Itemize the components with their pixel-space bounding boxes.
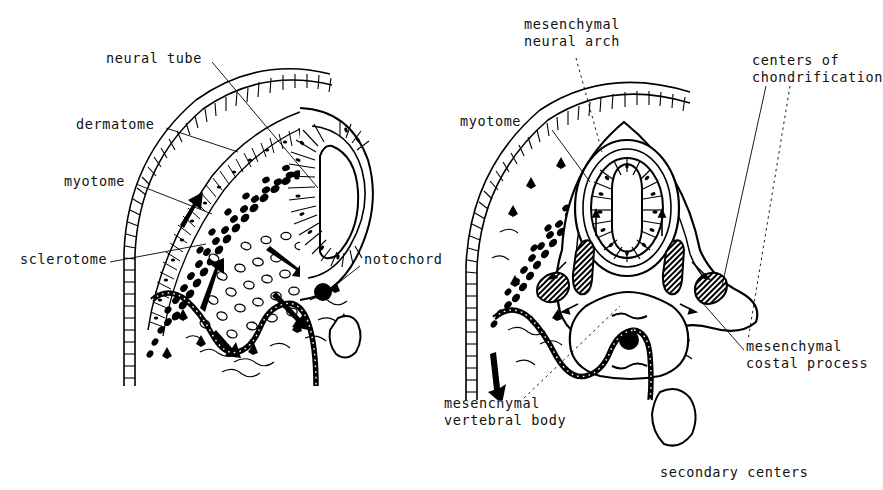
coelomic-vesicle-left [330,316,361,358]
mesenchymal-costal-process [652,389,696,446]
label-dermatome: dermatome [76,116,155,133]
loose-mesenchyme-left [186,297,347,376]
notochord-left [314,283,332,301]
neural-tube-left [288,108,373,300]
label-mesenchymal-costal-process: mesenchymal costal process [746,338,868,371]
label-notochord: notochord [364,251,443,268]
label-myotome-right: myotome [460,113,521,130]
right-panel-art [466,82,757,445]
coelomic-epithelium-left [152,293,316,386]
left-panel-art [124,69,373,386]
caption-secondary-centers: secondary centers [660,464,808,481]
sclerotome-zone-left [199,232,305,339]
label-myotome: myotome [64,173,125,190]
mesenchymal-vertebral-body [570,292,688,379]
label-mesenchymal-vertebral-body: mesenchymal vertebral body [444,395,566,428]
label-mesenchymal-neural-arch: mesenchymal neural arch [524,16,620,49]
label-neural-tube: neural tube [106,50,202,67]
label-sclerotome: sclerotome [20,251,107,268]
label-centers-of-chondrification: centers of chondrification [752,52,883,85]
